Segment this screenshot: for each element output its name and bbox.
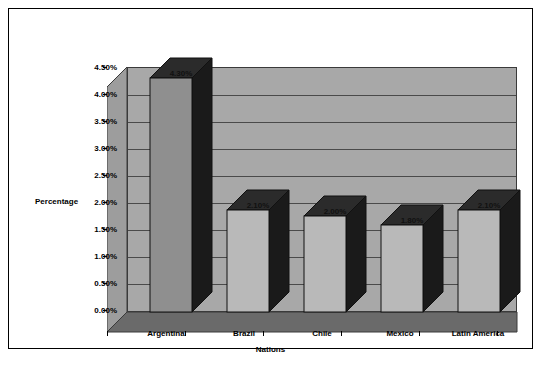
chart-frame: 4.30% 2.10% 2.00% [8, 8, 533, 349]
x-axis-title: Nations [9, 345, 532, 354]
x-axis-label-chile: Chile [312, 329, 332, 338]
y-axis-label: 4.50% [94, 63, 117, 72]
x-tick [107, 331, 108, 336]
y-axis-title: Percentage [35, 197, 78, 206]
data-label-argentina: 4.30% [170, 69, 193, 78]
y-axis-label: 1.00% [94, 252, 117, 261]
y-axis-label: 2.00% [94, 198, 117, 207]
y-axis-label: 1.50% [94, 225, 117, 234]
data-label-chile: 2.00% [324, 207, 347, 216]
chart-screenshot: 4.30% 2.10% 2.00% [0, 0, 543, 366]
bar-brazil [227, 210, 269, 312]
data-label-mexico: 1.80% [401, 216, 424, 225]
data-label-latin-america: 2.10% [478, 201, 501, 210]
x-axis-label-latin-america: Latin America [452, 329, 505, 338]
y-axis-label: 3.50% [94, 117, 117, 126]
x-axis-label-mexico: Mexico [386, 329, 413, 338]
data-label-brazil: 2.10% [247, 201, 270, 210]
x-axis-labels: Argentina Brazil Chile Mexico Latin Amer… [127, 329, 517, 345]
y-axis-label: 0.50% [94, 279, 117, 288]
bar-argentina [150, 78, 192, 312]
y-axis-label: 4.00% [94, 90, 117, 99]
bar-latin-america [458, 210, 500, 312]
y-axis-label: 0.00% [94, 306, 117, 315]
x-axis-label-argentina: Argentina [147, 329, 184, 338]
y-axis-label: 3.00% [94, 144, 117, 153]
bar-mexico [381, 225, 423, 312]
x-axis-label-brazil: Brazil [233, 329, 255, 338]
y-axis-labels: 4.50% 4.00% 3.50% 3.00% 2.50% 2.00% 1.50… [43, 9, 117, 366]
bar-chile [304, 216, 346, 312]
y-axis-label: 2.50% [94, 171, 117, 180]
